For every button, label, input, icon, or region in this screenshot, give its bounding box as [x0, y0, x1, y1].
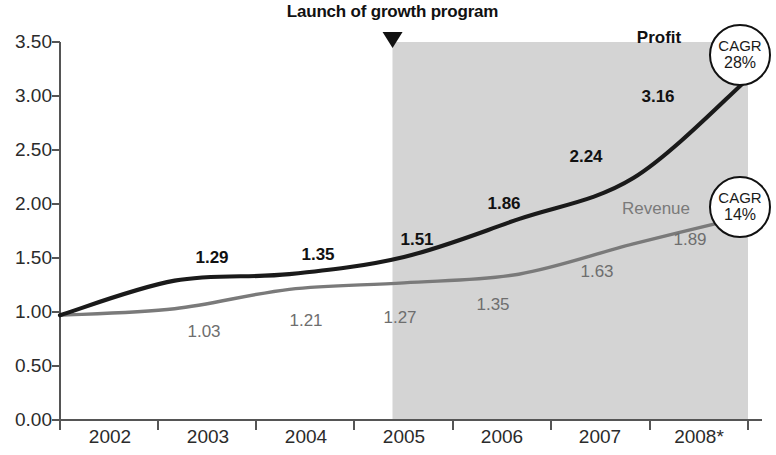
y-tick-050: 0.50 — [0, 355, 52, 377]
profit-label-2004: 1.35 — [301, 245, 334, 265]
profit-label-2008: 3.16 — [641, 87, 674, 107]
profit-cagr-value: 28% — [724, 54, 756, 71]
x-tick-2002: 2002 — [89, 426, 131, 448]
x-tick-2007: 2007 — [579, 426, 621, 448]
growth-program-chart: Launch of growth program — [0, 0, 776, 455]
revenue-series-label: Revenue — [622, 199, 690, 219]
profit-cagr-badge: CAGR 28% — [709, 24, 771, 86]
x-tick-2006: 2006 — [481, 426, 523, 448]
plot-area — [0, 0, 776, 455]
y-tick-350: 3.50 — [0, 31, 52, 53]
y-tick-250: 2.50 — [0, 139, 52, 161]
profit-label-2007: 2.24 — [569, 147, 602, 167]
x-tick-2008: 2008* — [674, 426, 724, 448]
y-axis-ticks — [52, 42, 60, 420]
profit-label-2006: 1.86 — [487, 194, 520, 214]
revenue-cagr-value: 14% — [724, 206, 756, 223]
profit-label-2003: 1.29 — [195, 248, 228, 268]
x-tick-2004: 2004 — [285, 426, 327, 448]
profit-label-2005: 1.51 — [400, 230, 433, 250]
revenue-label-2003: 1.03 — [187, 322, 220, 342]
y-tick-300: 3.00 — [0, 85, 52, 107]
y-tick-000: 0.00 — [0, 409, 52, 431]
revenue-label-2007: 1.63 — [580, 262, 613, 282]
y-axis-tick-labels: 3.50 3.00 2.50 2.00 1.50 1.00 0.50 0.00 — [0, 0, 52, 455]
revenue-label-2005: 1.27 — [383, 308, 416, 328]
revenue-label-2006: 1.35 — [476, 295, 509, 315]
revenue-label-2008: 1.89 — [673, 230, 706, 250]
y-tick-100: 1.00 — [0, 301, 52, 323]
revenue-cagr-word: CAGR — [718, 190, 761, 206]
revenue-label-2004: 1.21 — [289, 311, 322, 331]
x-tick-2003: 2003 — [187, 426, 229, 448]
x-tick-2005: 2005 — [383, 426, 425, 448]
profit-series-label: Profit — [637, 28, 681, 48]
profit-cagr-word: CAGR — [718, 38, 761, 54]
y-tick-150: 1.50 — [0, 247, 52, 269]
revenue-cagr-badge: CAGR 14% — [709, 176, 771, 238]
y-tick-200: 2.00 — [0, 193, 52, 215]
